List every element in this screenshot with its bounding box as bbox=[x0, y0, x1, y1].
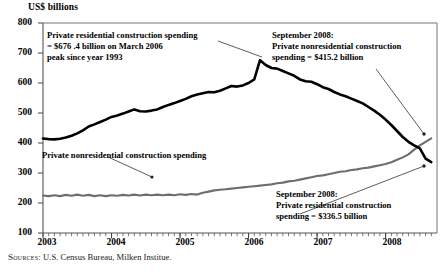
annotation-residential-sept2008: September 2008: Private residential cons… bbox=[276, 189, 391, 223]
annotation-nonres-sept-line2: Private nonresidential construction bbox=[272, 41, 401, 52]
series-line-nonresidential bbox=[43, 138, 431, 196]
y-tick-label-800: 800 bbox=[8, 17, 32, 27]
x-tick-label-2008: 2008 bbox=[372, 237, 412, 247]
plot-area: 800 700 600 500 400 300 200 100 2003 200… bbox=[0, 0, 448, 250]
leader-residential-peak bbox=[218, 41, 262, 57]
source-note: Sources: U.S. Census Bureau, Milken Inst… bbox=[8, 252, 172, 262]
leader-nonres-sept bbox=[376, 69, 424, 134]
annotation-nonres-sept-line1: September 2008: bbox=[272, 30, 401, 41]
annotation-residential-peak-line3: peak since year 1993 bbox=[47, 52, 197, 63]
source-text: U.S. Census Bureau, Milken Institue. bbox=[41, 252, 172, 262]
y-tick-label-700: 700 bbox=[8, 47, 32, 57]
annotation-residential-peak: Private residential construction spendin… bbox=[47, 30, 197, 64]
y-tick-label-100: 100 bbox=[8, 227, 32, 237]
annotation-res-sept-line3: spending = $336.5 billion bbox=[276, 211, 391, 222]
annotation-residential-peak-line2: = $676 .4 billion on March 2006 bbox=[47, 41, 197, 52]
x-tick-label-2003: 2003 bbox=[27, 237, 67, 247]
annotation-res-sept-line2: Private residential construction bbox=[276, 200, 391, 211]
annotation-residential-peak-line1: Private residential construction spendin… bbox=[47, 30, 197, 41]
y-axis-ticks bbox=[38, 23, 43, 233]
source-label: Sources: bbox=[8, 252, 41, 262]
series-line-residential bbox=[43, 60, 431, 162]
annotation-nonresidential-sept2008: September 2008: Private nonresidential c… bbox=[272, 30, 401, 64]
annotation-nonresidential-series-label: Private nonresidential construction spen… bbox=[42, 150, 206, 161]
x-tick-label-2005: 2005 bbox=[165, 237, 205, 247]
y-tick-label-500: 500 bbox=[8, 107, 32, 117]
y-tick-label-200: 200 bbox=[8, 197, 32, 207]
annotation-nonres-sept-line3: spending = $415.2 billion bbox=[272, 52, 401, 63]
x-tick-label-2006: 2006 bbox=[234, 237, 274, 247]
x-tick-label-2004: 2004 bbox=[96, 237, 136, 247]
y-tick-label-600: 600 bbox=[8, 77, 32, 87]
annotation-res-sept-line1: September 2008: bbox=[276, 189, 391, 200]
chart-figure: US$ billions bbox=[0, 0, 448, 275]
x-tick-label-2007: 2007 bbox=[303, 237, 343, 247]
y-tick-label-400: 400 bbox=[8, 137, 32, 147]
y-tick-label-300: 300 bbox=[8, 167, 32, 177]
